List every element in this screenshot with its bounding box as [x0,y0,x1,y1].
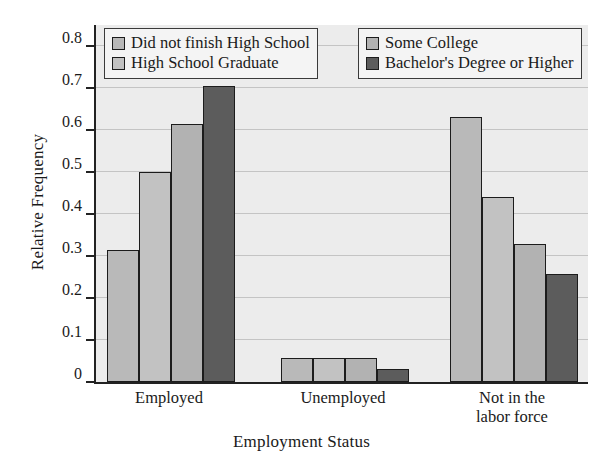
x-axis-category-label: Not in thelabor force [422,388,602,426]
y-axis-tick [86,45,94,47]
x-axis-category-label: Unemployed [253,388,433,407]
x-axis-category-label-line: Employed [79,388,259,407]
legend-label: Bachelor's Degree or Higher [385,53,574,73]
y-axis-tick-label: 0.3 [24,240,82,256]
x-axis-category-label-line: labor force [422,407,602,426]
legend-label: High School Graduate [131,53,279,73]
y-axis-tick-label: 0.4 [24,198,82,214]
y-axis-tick [86,213,94,215]
legend-box-right: Some College Bachelor's Degree or Higher [358,28,582,79]
y-axis-tick [86,87,94,89]
legend-label: Some College [385,33,478,53]
legend-swatch-icon [112,37,125,50]
legend-entry: Did not finish High School [112,33,310,53]
plot-area: Did not finish High School High School G… [94,25,588,384]
y-axis-tick [86,129,94,131]
x-axis-category-label-line: Not in the [422,388,602,407]
legend-entry: Bachelor's Degree or Higher [366,53,574,73]
legend-label: Did not finish High School [131,33,310,53]
legend-swatch-icon [366,37,379,50]
legend-entry: Some College [366,33,574,53]
y-axis-tick-label: 0.8 [24,30,82,46]
y-axis-tick-label: 0.7 [24,72,82,88]
y-axis-tick [86,297,94,299]
x-axis-category-label-line: Unemployed [253,388,433,407]
legend-layer: Did not finish High School High School G… [96,25,588,382]
legend-entry: High School Graduate [112,53,310,73]
legend-swatch-icon [366,57,379,70]
y-axis-tick-label: 0.6 [24,114,82,130]
legend-box-left: Did not finish High School High School G… [104,28,318,79]
y-axis-tick [86,171,94,173]
bar-chart-figure: Relative Frequency 00.10.20.30.40.50.60.… [0,0,603,464]
y-axis-tick [86,255,94,257]
y-axis-tick-label: 0.5 [24,156,82,172]
y-axis-tick [86,381,94,383]
y-axis-tick-label: 0 [24,366,82,382]
y-axis-tick [86,339,94,341]
x-axis-title: Employment Status [0,432,603,452]
legend-swatch-icon [112,57,125,70]
x-axis-category-label: Employed [79,388,259,407]
y-axis-tick-label: 0.1 [24,324,82,340]
y-axis-tick-label: 0.2 [24,282,82,298]
